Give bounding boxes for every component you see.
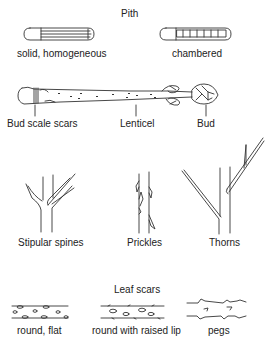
- pegs-scar-icon: [187, 299, 246, 319]
- leaf-scar-raised-lip-label: round with raised lip: [92, 325, 181, 337]
- round-flat-scar-icon: [12, 306, 68, 319]
- chambered-pith-twig-icon: [160, 28, 231, 40]
- thorns-icon: [182, 138, 264, 234]
- pith-solid-label: solid, homogeneous: [17, 48, 107, 60]
- raised-lip-scar-icon: [101, 305, 164, 319]
- pith-title: Pith: [121, 8, 138, 20]
- stipular-spines-icon: [26, 174, 75, 232]
- stipular-spines-label: Stipular spines: [18, 237, 84, 249]
- twig-icon: [18, 84, 218, 116]
- leaf-scar-round-flat-label: round, flat: [17, 325, 61, 337]
- twig-bud-label: Bud: [197, 118, 215, 130]
- prickles-label: Prickles: [127, 237, 162, 249]
- twig-bud-scale-scars-label: Bud scale scars: [7, 118, 78, 130]
- prickles-icon: [136, 172, 155, 233]
- solid-pith-twig-icon: [24, 28, 94, 40]
- pith-chambered-label: chambered: [172, 48, 222, 60]
- thorns-label: Thorns: [209, 237, 240, 249]
- leaf-scar-pegs-label: pegs: [208, 325, 230, 337]
- leaf-scars-title: Leaf scars: [114, 284, 160, 296]
- twig-lenticel-label: Lenticel: [120, 118, 154, 130]
